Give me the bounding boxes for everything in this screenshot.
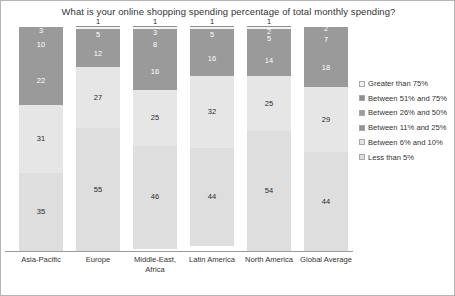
segment-tick-line [76, 26, 120, 27]
bar-segment[interactable]: 44 [304, 152, 348, 251]
segment-value-label: 1 [96, 18, 100, 26]
x-axis-category-label: Global Average [290, 255, 362, 265]
legend-item[interactable]: Less than 5% [359, 153, 451, 162]
segment-value-label: 16 [151, 68, 159, 76]
bar-segment[interactable]: 3 [133, 29, 177, 36]
bar-segment[interactable]: 8 [133, 36, 177, 54]
segment-value-label: 32 [208, 108, 216, 116]
segment-value-label: 22 [37, 77, 45, 85]
segment-value-label: 25 [151, 114, 159, 122]
segment-value-label: 16 [208, 55, 216, 63]
legend-item[interactable]: Between 6% and 10% [359, 138, 451, 147]
legend-swatch-icon [359, 110, 365, 116]
bar-segment[interactable]: 29 [304, 87, 348, 152]
bar-segment[interactable]: 46 [133, 146, 177, 249]
legend-swatch-icon [359, 154, 365, 160]
segment-value-label: 14 [265, 57, 273, 65]
legend-item[interactable]: Between 51% and 75% [359, 94, 451, 103]
bar-segment[interactable]: 31 [19, 105, 63, 174]
legend-item[interactable]: Greater than 75% [359, 79, 451, 88]
bar-segment[interactable]: 3 [19, 27, 63, 34]
legend-label: Greater than 75% [368, 79, 428, 88]
segment-value-label: 18 [322, 64, 330, 72]
bar-segment[interactable]: 16 [133, 54, 177, 90]
x-axis-line [5, 251, 353, 252]
segment-value-label: 8 [153, 41, 157, 49]
chart-container: What is your online shopping spending pe… [0, 0, 455, 296]
segment-value-label: 31 [37, 135, 45, 143]
bar-segment[interactable]: 27 [76, 67, 120, 127]
segment-tick-line [133, 26, 177, 27]
bar-stack: 27182944 [304, 27, 348, 251]
bar-segment[interactable]: 35 [19, 173, 63, 251]
segment-value-label: 10 [37, 41, 45, 49]
segment-value-label: 27 [94, 94, 102, 102]
segment-value-label: 1 [210, 18, 214, 26]
bar-segment[interactable]: 14 [247, 45, 291, 76]
segment-value-label: 7 [324, 36, 328, 44]
segment-value-label: 46 [151, 193, 159, 201]
legend-swatch-icon [359, 139, 365, 145]
legend-label: Less than 5% [368, 153, 414, 162]
bar-stack: 125142554 [247, 27, 291, 251]
segment-value-label: 12 [94, 50, 102, 58]
bar-segment[interactable]: 22 [19, 56, 63, 105]
bar-segment[interactable]: 25 [247, 76, 291, 131]
segment-value-label: 55 [94, 186, 102, 194]
bar-segment[interactable]: 44 [190, 148, 234, 247]
legend-item[interactable]: Between 26% and 50% [359, 108, 451, 117]
segment-value-label: 5 [267, 35, 271, 43]
plot-area: 3102231351512275513816254615163244125142… [9, 23, 349, 251]
segment-value-label: 25 [265, 100, 273, 108]
bar-segment[interactable]: 55 [76, 128, 120, 251]
bar-segment[interactable]: 25 [133, 90, 177, 146]
bar-segment[interactable]: 54 [247, 131, 291, 251]
legend-swatch-icon [359, 81, 365, 87]
legend-label: Between 11% and 25% [368, 123, 446, 132]
segment-tick-line [247, 26, 291, 27]
bar-segment[interactable]: 18 [304, 47, 348, 87]
bar-stack: 138162546 [133, 27, 177, 251]
segment-value-label: 44 [322, 198, 330, 206]
legend-swatch-icon [359, 125, 365, 131]
bar-segment[interactable]: 5 [190, 29, 234, 40]
legend-swatch-icon [359, 95, 365, 101]
segment-value-label: 35 [37, 208, 45, 216]
chart-title: What is your online shopping spending pe… [1, 6, 455, 17]
segment-value-label: 5 [96, 31, 100, 39]
segment-value-label: 1 [267, 18, 271, 26]
bar-segment[interactable]: 12 [76, 40, 120, 67]
segment-tick-line [190, 26, 234, 27]
legend-item[interactable]: Between 11% and 25% [359, 123, 451, 132]
segment-value-label: 54 [265, 187, 273, 195]
segment-value-label: 44 [208, 193, 216, 201]
bar-segment[interactable]: 7 [304, 31, 348, 47]
bar-stack: 15163244 [190, 27, 234, 251]
bar-stack: 15122755 [76, 27, 120, 251]
bar-stack: 310223135 [19, 27, 63, 251]
legend-label: Between 26% and 50% [368, 108, 447, 117]
bar-segment[interactable]: 16 [190, 40, 234, 76]
legend-label: Between 6% and 10% [368, 138, 443, 147]
bar-segment[interactable]: 10 [19, 34, 63, 56]
segment-value-label: 1 [153, 18, 157, 26]
bar-segment[interactable]: 5 [247, 34, 291, 45]
chart-legend: Greater than 75%Between 51% and 75%Betwe… [359, 79, 451, 167]
bar-segment[interactable]: 32 [190, 76, 234, 148]
segment-value-label: 5 [210, 31, 214, 39]
segment-value-label: 29 [322, 116, 330, 124]
legend-label: Between 51% and 75% [368, 94, 447, 103]
bar-segment[interactable]: 5 [76, 29, 120, 40]
